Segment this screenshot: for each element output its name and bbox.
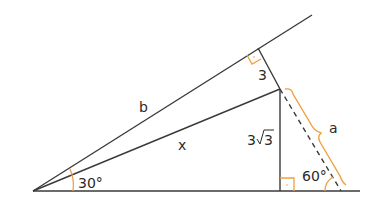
geometry-diagram: b x a 3 30° 60° 3 3 bbox=[0, 0, 378, 204]
svg-text:3: 3 bbox=[247, 132, 256, 148]
label-angle-30: 30° bbox=[78, 175, 103, 191]
label-b: b bbox=[139, 99, 148, 115]
label-perp-length: 3 bbox=[258, 67, 267, 83]
line-x bbox=[33, 89, 280, 191]
label-vertical-length: 3 3 bbox=[247, 130, 274, 148]
angle-arc-30 bbox=[70, 169, 73, 191]
right-angle-marker-top bbox=[247, 55, 261, 64]
svg-text:3: 3 bbox=[264, 132, 273, 148]
label-x: x bbox=[178, 137, 186, 153]
label-a: a bbox=[329, 120, 338, 136]
label-angle-60: 60° bbox=[302, 168, 327, 184]
right-angle-marker-bottom bbox=[280, 178, 294, 191]
line-b bbox=[33, 15, 312, 191]
